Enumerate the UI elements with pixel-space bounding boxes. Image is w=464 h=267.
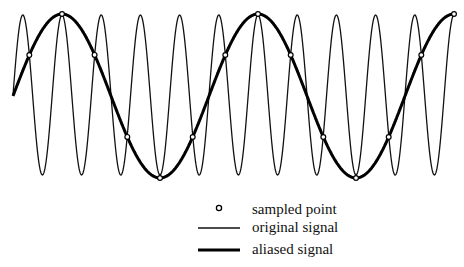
sampled-point: [223, 53, 228, 58]
sampled-point: [386, 135, 391, 140]
sampled-point: [452, 12, 457, 17]
sampled-point: [256, 12, 261, 17]
sampled-point: [288, 53, 293, 58]
sampled-point: [190, 135, 195, 140]
sampled-point: [354, 176, 359, 181]
thin-line-icon: [198, 218, 240, 236]
sampled-point: [60, 12, 65, 17]
sampled-point-icon: [198, 200, 240, 218]
sampled-point: [125, 135, 130, 140]
legend-label: aliased signal: [252, 240, 333, 258]
aliasing-plot: [0, 0, 464, 190]
sampled-point: [27, 53, 32, 58]
sampled-point: [321, 135, 326, 140]
sampled-point: [419, 53, 424, 58]
legend-label: original signal: [252, 218, 338, 236]
thick-line-icon: [198, 240, 240, 258]
legend-label: sampled point: [252, 200, 337, 218]
sampled-point: [158, 176, 163, 181]
sampled-point: [92, 53, 97, 58]
